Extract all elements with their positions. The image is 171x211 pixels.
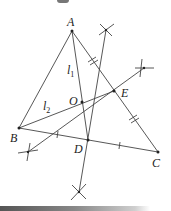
single-tick-bd — [57, 131, 58, 138]
geometry-diagram: A B C D E O l1 l2 — [0, 0, 171, 211]
label-c: C — [152, 156, 161, 170]
single-tick-dc — [119, 142, 120, 149]
point-e — [113, 90, 116, 93]
line-l1-ad — [72, 31, 88, 140]
arc-mark-right — [135, 59, 154, 77]
perp-bisector-bc — [79, 30, 106, 192]
point-a — [71, 30, 74, 33]
label-b: B — [10, 131, 18, 145]
label-l1: l1 — [67, 63, 74, 79]
arc-mark-bottom — [71, 184, 86, 200]
label-a: A — [66, 15, 75, 29]
point-d — [87, 139, 90, 142]
point-b — [18, 127, 21, 130]
label-l2: l2 — [43, 99, 50, 115]
label-d: D — [73, 142, 83, 156]
label-o: O — [69, 94, 78, 108]
point-o — [81, 101, 84, 104]
label-e: E — [120, 86, 129, 100]
arc-mark-lower-left — [18, 143, 38, 161]
point-c — [157, 151, 160, 154]
bottom-gradient-bar — [0, 206, 150, 211]
arc-mark-top — [99, 24, 114, 36]
line-l2-be — [19, 91, 114, 128]
